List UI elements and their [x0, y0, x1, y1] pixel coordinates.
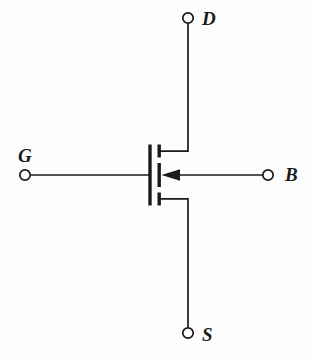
- source-lead-line: [160, 199, 188, 328]
- gate-terminal-label: G: [18, 146, 32, 165]
- source-terminal-node[interactable]: [183, 328, 193, 338]
- drain-terminal-node[interactable]: [183, 13, 193, 23]
- body-terminal-label: B: [285, 165, 298, 184]
- mosfet-schematic: [0, 0, 312, 359]
- body-arrowhead-icon: [162, 169, 181, 181]
- drain-lead-line: [160, 24, 188, 152]
- source-branch: [160, 199, 193, 338]
- gate-branch: [20, 170, 150, 180]
- drain-terminal-label: D: [202, 9, 216, 28]
- body-branch: [162, 169, 274, 181]
- body-terminal-node[interactable]: [263, 170, 273, 180]
- gate-terminal-node[interactable]: [20, 170, 30, 180]
- figure-canvas: D G B S: [0, 0, 312, 359]
- drain-branch: [160, 13, 193, 151]
- source-terminal-label: S: [202, 325, 213, 344]
